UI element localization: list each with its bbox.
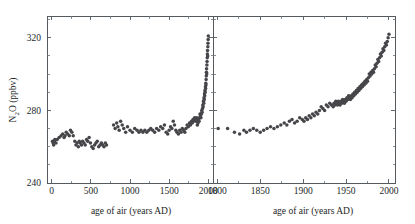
right-panel-xtick-label: 1800 <box>208 186 227 196</box>
data-point <box>295 120 299 124</box>
data-point <box>385 43 389 47</box>
data-point <box>183 130 187 134</box>
data-point <box>323 109 327 113</box>
data-point <box>206 49 210 53</box>
right-panel-xtick-label: 1850 <box>251 186 270 196</box>
data-point <box>126 125 129 129</box>
left-panel-frame <box>47 16 213 183</box>
data-point <box>77 145 81 149</box>
data-point <box>206 38 210 42</box>
data-point <box>206 45 210 49</box>
data-point <box>206 54 210 58</box>
data-point <box>285 123 289 127</box>
data-point <box>131 130 135 134</box>
ytick-label: 240 <box>27 178 42 188</box>
left-panel-xtick-label: 0 <box>49 186 54 196</box>
data-point <box>166 132 170 136</box>
data-point <box>255 129 259 133</box>
data-point <box>203 94 207 98</box>
data-point <box>105 143 109 147</box>
data-point <box>318 109 322 113</box>
data-point <box>226 127 230 131</box>
left-panel-xtick-label: 500 <box>84 186 99 196</box>
right-panel-x-axis-title: age of air (years AD) <box>273 206 353 217</box>
data-point <box>201 105 205 109</box>
data-point <box>387 32 391 36</box>
data-point <box>207 34 211 38</box>
data-point <box>262 129 266 133</box>
plot-canvas: N2O (ppbv) 05001000150020002402803201800… <box>0 0 415 224</box>
data-point <box>157 129 161 133</box>
right-panel-frame <box>213 16 395 183</box>
data-point <box>173 123 177 127</box>
data-point <box>91 147 95 151</box>
data-point <box>71 134 75 138</box>
data-point <box>386 36 390 40</box>
data-point <box>279 123 283 127</box>
data-point <box>112 123 116 127</box>
data-point <box>197 120 201 124</box>
data-point <box>309 116 313 120</box>
data-point <box>87 136 91 140</box>
data-point <box>205 72 209 76</box>
data-point <box>238 132 242 136</box>
data-point <box>68 134 72 138</box>
data-point <box>153 130 157 134</box>
right-panel-xtick-label: 1900 <box>294 186 313 196</box>
right-panel-xtick-label: 1950 <box>337 186 356 196</box>
y-axis-title-text: N2O (ppbv) <box>8 78 21 123</box>
data-point <box>245 130 249 134</box>
data-point <box>163 123 167 127</box>
data-point <box>258 130 262 134</box>
data-point <box>202 101 206 105</box>
data-point <box>120 123 124 127</box>
right-panel-datapoints <box>216 32 390 135</box>
data-point <box>290 118 294 122</box>
n2o-figure: N2O (ppbv) 05001000150020002402803201800… <box>0 0 415 224</box>
data-point <box>326 105 330 109</box>
data-point <box>216 127 220 131</box>
y-axis-title-post: O (ppbv) <box>8 78 19 113</box>
data-point <box>171 120 175 124</box>
data-point <box>233 130 237 134</box>
data-point <box>116 125 120 129</box>
right-panel-xtick-label: 2000 <box>379 186 398 196</box>
ytick-label: 280 <box>27 106 42 116</box>
data-point <box>170 127 174 131</box>
data-point <box>122 127 126 131</box>
data-point <box>199 116 203 120</box>
data-point <box>269 125 273 129</box>
data-point <box>248 129 252 133</box>
data-point <box>372 71 376 75</box>
data-point <box>117 129 121 133</box>
data-point <box>382 49 386 53</box>
data-point <box>115 121 119 125</box>
data-point <box>377 60 381 64</box>
data-point <box>276 125 280 129</box>
left-panel-datapoints <box>51 34 210 150</box>
data-point <box>54 141 58 145</box>
data-point <box>83 143 87 147</box>
data-point <box>313 114 317 118</box>
data-point <box>272 127 276 131</box>
ytick-label: 320 <box>27 33 42 43</box>
data-point <box>124 130 128 134</box>
data-point <box>203 90 207 94</box>
data-point <box>306 118 310 122</box>
data-point <box>265 127 269 131</box>
data-point <box>161 127 165 131</box>
data-point <box>386 40 390 44</box>
data-point <box>89 141 93 145</box>
data-point <box>205 67 209 71</box>
left-panel-x-axis-title: age of air (years AD) <box>91 206 171 217</box>
data-point <box>202 98 206 102</box>
data-point <box>374 65 378 69</box>
data-point <box>119 120 123 124</box>
data-point <box>366 80 370 84</box>
data-point <box>206 41 210 45</box>
data-point <box>204 83 208 87</box>
left-panel-xtick-label: 1000 <box>121 186 140 196</box>
data-point <box>205 63 209 67</box>
data-point <box>316 112 320 116</box>
data-point <box>96 140 100 144</box>
